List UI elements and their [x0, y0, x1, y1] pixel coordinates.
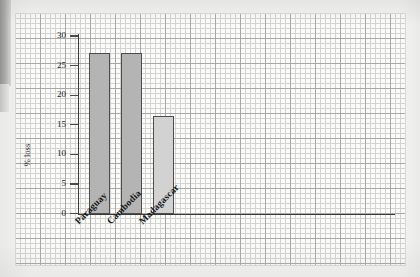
- y-axis-title: % loss: [22, 125, 32, 185]
- y-tick-30: [70, 35, 78, 36]
- y-tick-label-20: 20: [44, 89, 66, 99]
- y-tick-label-25: 25: [44, 60, 66, 70]
- bar-paraguay: [89, 53, 111, 214]
- y-axis-line: [78, 34, 79, 215]
- y-tick-label-30: 30: [44, 30, 66, 40]
- y-tick-10: [70, 154, 78, 155]
- y-tick-15: [70, 124, 78, 125]
- y-tick-25: [70, 65, 78, 66]
- bar-cambodia: [121, 53, 143, 214]
- scanned-page: % loss 051015202530 ParaguayCambodiaMada…: [0, 0, 420, 277]
- x-axis-line: [78, 214, 395, 215]
- y-tick-label-5: 5: [44, 178, 66, 188]
- y-tick-label-0: 0: [44, 208, 66, 218]
- y-tick-5: [70, 183, 78, 184]
- bar-chart-plot: % loss 051015202530 ParaguayCambodiaMada…: [0, 0, 420, 277]
- y-tick-20: [70, 95, 78, 96]
- y-tick-label-15: 15: [44, 119, 66, 129]
- y-tick-label-10: 10: [44, 148, 66, 158]
